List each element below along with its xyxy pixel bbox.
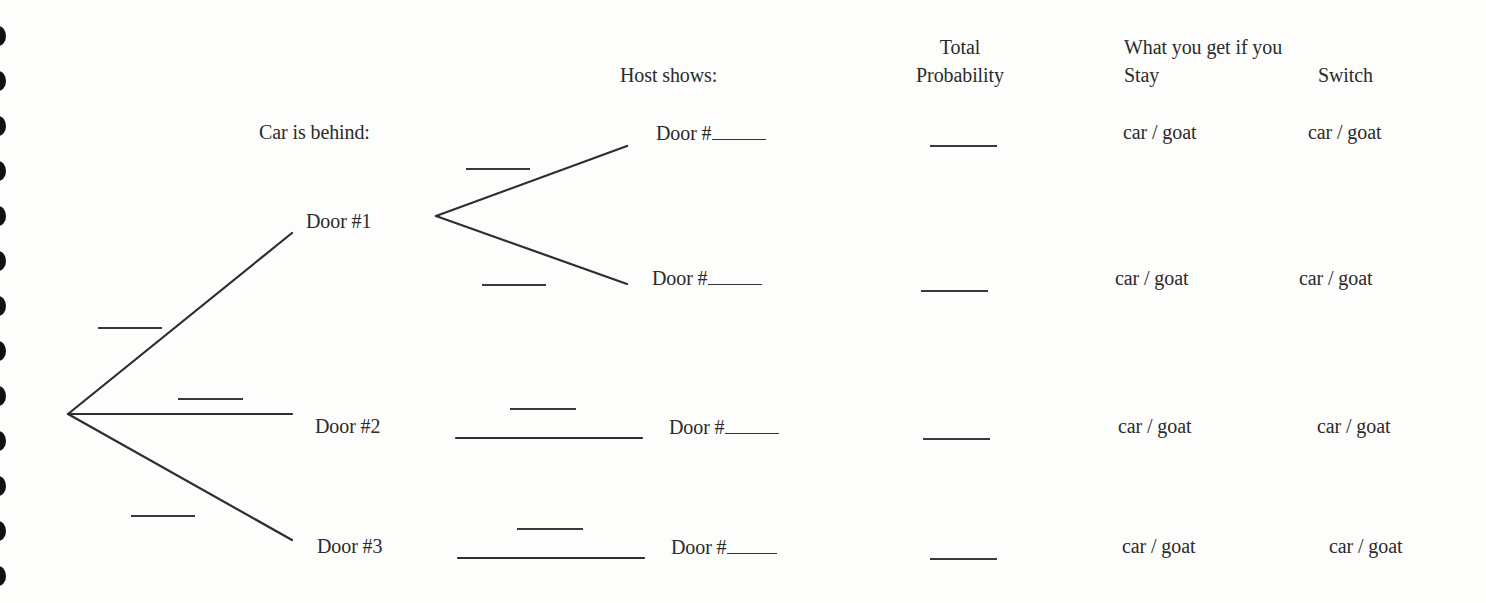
host-door-label: Door # — [656, 122, 712, 144]
total-prob-blank-2[interactable] — [921, 290, 988, 292]
branch-prob-blank-host-d[interactable] — [517, 528, 583, 530]
door2-label: Door #2 — [315, 415, 380, 437]
branch-root-door3 — [68, 414, 292, 540]
branch-prob-blank-host-b[interactable] — [482, 284, 546, 286]
total-prob-blank-1[interactable] — [930, 145, 997, 147]
total-prob-blank-3[interactable] — [923, 438, 990, 440]
branch-door1-host-b — [436, 216, 627, 284]
switch-outcome-2[interactable]: car / goat — [1299, 267, 1372, 289]
host-door-blank[interactable] — [712, 121, 766, 140]
branch-prob-blank-host-a[interactable] — [466, 168, 530, 170]
branch-prob-blank-door3[interactable] — [131, 515, 195, 517]
host-door-row-1: Door # — [656, 121, 766, 144]
probability-tree-branches — [0, 0, 1486, 603]
host-door-blank[interactable] — [708, 266, 762, 285]
host-door-blank[interactable] — [727, 535, 777, 554]
header-total-line2: Probability — [900, 64, 1020, 86]
header-what-you-get: What you get if you — [1124, 36, 1282, 58]
branch-door1-host-a — [436, 146, 627, 216]
total-prob-blank-4[interactable] — [930, 558, 997, 560]
switch-outcome-1[interactable]: car / goat — [1308, 121, 1381, 143]
stay-outcome-2[interactable]: car / goat — [1115, 267, 1188, 289]
header-car-is-behind: Car is behind: — [259, 121, 370, 143]
header-total-line1: Total — [900, 36, 1020, 58]
branch-prob-blank-host-c[interactable] — [510, 408, 576, 410]
host-door-row-2: Door # — [652, 266, 762, 289]
monty-hall-worksheet: Car is behind: Host shows: Total Probabi… — [0, 0, 1486, 603]
branch-prob-blank-door2[interactable] — [178, 398, 243, 400]
stay-outcome-3[interactable]: car / goat — [1118, 415, 1191, 437]
door3-label: Door #3 — [317, 535, 382, 557]
stay-outcome-1[interactable]: car / goat — [1123, 121, 1196, 143]
switch-outcome-4[interactable]: car / goat — [1329, 535, 1402, 557]
host-door-label: Door # — [669, 416, 725, 438]
host-door-label: Door # — [671, 536, 727, 558]
switch-outcome-3[interactable]: car / goat — [1317, 415, 1390, 437]
stay-outcome-4[interactable]: car / goat — [1122, 535, 1195, 557]
header-stay: Stay — [1124, 64, 1159, 86]
host-door-label: Door # — [652, 267, 708, 289]
branch-prob-blank-door1[interactable] — [98, 327, 162, 329]
host-door-blank[interactable] — [725, 415, 779, 434]
header-host-shows: Host shows: — [620, 64, 717, 86]
door1-label: Door #1 — [306, 210, 371, 232]
branch-root-door1 — [68, 233, 292, 414]
header-switch: Switch — [1318, 64, 1373, 86]
host-door-row-3: Door # — [669, 415, 779, 438]
host-door-row-4: Door # — [671, 535, 777, 558]
